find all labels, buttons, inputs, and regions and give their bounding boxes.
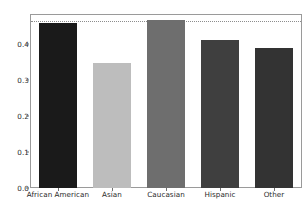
x-tick-mark bbox=[112, 188, 113, 191]
x-tick-label: African American bbox=[27, 190, 89, 199]
bar-hispanic[interactable] bbox=[201, 40, 240, 188]
x-tick-label: Asian bbox=[102, 190, 122, 199]
x-tick-mark bbox=[166, 188, 167, 191]
y-tick-mark bbox=[26, 43, 29, 44]
y-tick-mark bbox=[26, 79, 29, 80]
bar-caucasian[interactable] bbox=[147, 20, 186, 188]
x-tick-label: Caucasian bbox=[147, 190, 185, 199]
bar-african-american[interactable] bbox=[39, 23, 78, 188]
x-tick-label: Hispanic bbox=[204, 190, 235, 199]
x-tick-mark bbox=[58, 188, 59, 191]
x-tick-mark bbox=[274, 188, 275, 191]
y-tick-mark bbox=[26, 151, 29, 152]
bar-chart-figure: 0.00.10.20.30.4 African AmericanAsianCau… bbox=[0, 0, 306, 214]
x-tick-mark bbox=[220, 188, 221, 191]
y-tick-mark bbox=[26, 188, 29, 189]
y-tick-mark bbox=[26, 115, 29, 116]
bar-other[interactable] bbox=[255, 48, 294, 188]
bar-asian[interactable] bbox=[93, 63, 132, 188]
plot-area bbox=[31, 15, 301, 188]
x-tick-label: Other bbox=[264, 190, 285, 199]
